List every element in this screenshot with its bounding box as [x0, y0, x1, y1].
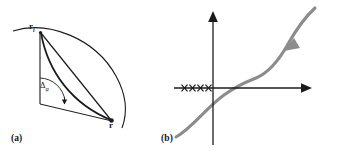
- label-delta-phi-angle: Δφ: [40, 81, 49, 92]
- panel-b-drawing: [168, 0, 339, 155]
- panel-caption-a: (a): [11, 133, 22, 143]
- imaginary-axis-arrow-icon: [208, 11, 218, 22]
- panel-b-complex-plane: Im p Re p Γ: [168, 0, 339, 155]
- point-marker-ri: [39, 31, 42, 34]
- panel-a-sphere-geometry: ri r Δφ: [0, 0, 168, 155]
- label-field-point-r: r: [109, 121, 113, 130]
- figure-root: ri r Δφ (a): [0, 0, 339, 155]
- contour-gamma-curve: [176, 8, 315, 137]
- real-axis-arrow-icon: [301, 83, 312, 93]
- angle-arrow-tip-icon: [62, 99, 67, 104]
- sphere-surface-arc: [13, 28, 126, 128]
- horizontal-base-line: [40, 104, 112, 121]
- panel-a-drawing: [0, 0, 168, 155]
- panel-caption-b: (b): [161, 133, 173, 143]
- label-source-point-ri: ri: [29, 22, 35, 33]
